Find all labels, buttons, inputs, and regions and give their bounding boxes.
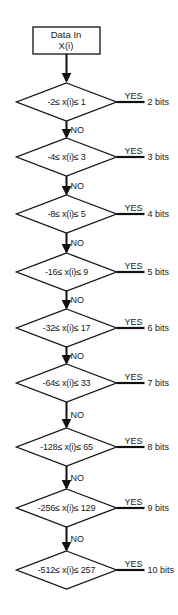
result-label: 4 bits xyxy=(148,209,170,219)
decision-condition: -16≤ x(i)≤ 9 xyxy=(17,267,117,277)
no-label: NO xyxy=(71,295,85,305)
no-label: NO xyxy=(71,181,85,191)
result-label: 5 bits xyxy=(148,267,170,277)
decision-condition: -8≤ x(i)≤ 5 xyxy=(17,209,117,219)
decision-condition: -256≤ x(i)≤ 129 xyxy=(17,503,117,513)
yes-label: YES xyxy=(125,317,143,327)
yes-label: YES xyxy=(125,203,143,213)
no-label: NO xyxy=(71,125,85,135)
result-label: 9 bits xyxy=(148,503,170,513)
yes-label: YES xyxy=(125,559,143,569)
flowchart-canvas xyxy=(0,0,178,615)
start-line-1: Data In xyxy=(33,29,99,40)
result-label: 2 bits xyxy=(148,97,170,107)
start-line-2: X(i) xyxy=(33,40,99,51)
yes-label: YES xyxy=(125,436,143,446)
yes-label: YES xyxy=(125,261,143,271)
decision-condition: -128≤ x(i)≤ 65 xyxy=(17,442,117,452)
no-label: NO xyxy=(71,410,85,420)
yes-label: YES xyxy=(125,497,143,507)
decision-condition: -4≤ x(i)≤ 3 xyxy=(17,152,117,162)
no-label: NO xyxy=(71,473,85,483)
decision-condition: -64≤ x(i)≤ 33 xyxy=(17,378,117,388)
result-label: 3 bits xyxy=(148,152,170,162)
decision-condition: -32≤ x(i)≤ 17 xyxy=(17,323,117,333)
result-label: 7 bits xyxy=(148,378,170,388)
start-box-label: Data In X(i) xyxy=(33,29,99,51)
no-label: NO xyxy=(71,351,85,361)
result-label: 8 bits xyxy=(148,442,170,452)
decision-condition: -2≤ x(i)≤ 1 xyxy=(17,97,117,107)
yes-label: YES xyxy=(125,372,143,382)
result-label: 10 bits xyxy=(148,565,175,575)
yes-label: YES xyxy=(125,146,143,156)
yes-label: YES xyxy=(125,91,143,101)
result-label: 6 bits xyxy=(148,323,170,333)
no-label: NO xyxy=(71,238,85,248)
no-label: NO xyxy=(71,534,85,544)
decision-condition: -512≤ x(i)≤ 257 xyxy=(17,565,117,575)
